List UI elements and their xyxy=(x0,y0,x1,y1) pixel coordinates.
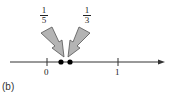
tick-label-0: 0 xyxy=(44,67,49,77)
denominator: 3 xyxy=(85,15,90,25)
point-one-fifth xyxy=(58,59,63,64)
fraction-one-third: 1 3 xyxy=(82,6,92,25)
numerator: 1 xyxy=(42,5,47,15)
pointer-arrow-one-third-icon xyxy=(68,27,90,57)
axis-arrowhead-icon xyxy=(158,60,165,65)
point-one-third xyxy=(67,59,72,64)
pointer-arrow-one-fifth-icon xyxy=(41,27,64,57)
denominator: 5 xyxy=(42,15,47,25)
fraction-one-fifth: 1 5 xyxy=(39,6,49,25)
numerator: 1 xyxy=(85,5,90,15)
tick-label-1: 1 xyxy=(115,67,120,77)
panel-label: (b) xyxy=(2,81,14,92)
